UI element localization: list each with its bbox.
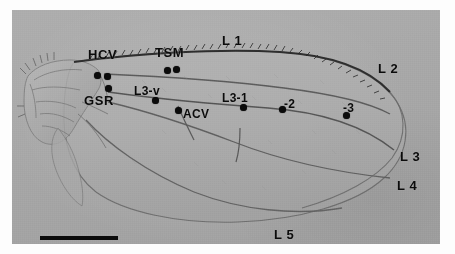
landmark-label-l3-3: -3 xyxy=(343,102,354,114)
landmark-label-acv: ACV xyxy=(183,108,209,120)
dot-gsr xyxy=(105,85,112,92)
figure-root: L 1L 2L 3L 4L 5HCVTSMGSRL3-vACVL3-1-2-3 xyxy=(0,0,455,254)
dot-hcv-distal xyxy=(104,73,111,80)
dot-acv xyxy=(175,107,182,114)
dot-hcv-proximal xyxy=(94,72,101,79)
landmark-label-gsr: GSR xyxy=(84,94,114,107)
scale-bar xyxy=(40,236,118,240)
vein-label-l4: L 4 xyxy=(397,179,417,192)
dot-tsm-posterior xyxy=(173,66,180,73)
micrograph-plate: L 1L 2L 3L 4L 5HCVTSMGSRL3-vACVL3-1-2-3 xyxy=(12,10,440,244)
landmark-label-tsm: TSM xyxy=(155,46,184,59)
landmark-label-l3-2: -2 xyxy=(284,98,295,110)
vein-label-l5: L 5 xyxy=(274,228,294,241)
vein-label-l2: L 2 xyxy=(378,62,398,75)
vein-label-l1: L 1 xyxy=(222,34,242,47)
landmark-label-hcv: HCV xyxy=(88,48,117,61)
dot-tsm-anterior xyxy=(164,67,171,74)
landmark-label-l3-1: L3-1 xyxy=(222,92,248,104)
landmark-label-l3-v: L3-v xyxy=(134,85,160,97)
vein-label-l3: L 3 xyxy=(400,150,420,163)
